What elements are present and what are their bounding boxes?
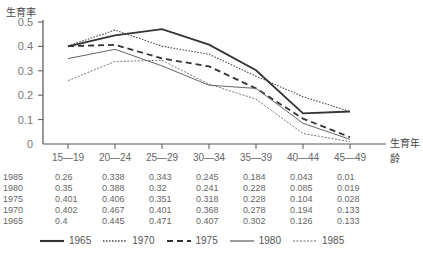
- x-axis-label: 生育年龄: [390, 135, 423, 165]
- table-cell: 0.467: [102, 205, 125, 215]
- line-chart: 00.10.20.30.40.515—1920—2425—2930—3435—3…: [0, 0, 423, 170]
- y-tick-label: 0: [27, 138, 33, 150]
- legend-label: 1985: [322, 235, 344, 246]
- x-tick-label: 40—44: [287, 152, 320, 163]
- y-tick-label: 0.3: [18, 65, 33, 77]
- table-cell: 0.318: [196, 194, 219, 204]
- legend-label: 1965: [69, 235, 91, 246]
- legend-item-1975: 1975: [167, 235, 218, 246]
- table-cell: 0.028: [337, 194, 360, 204]
- table-cell: 0.302: [243, 216, 266, 226]
- series-line-1985: [68, 60, 350, 141]
- table-year: 1965: [3, 216, 23, 226]
- table-cell: 0.278: [243, 205, 266, 215]
- legend-line-icon: [230, 238, 256, 244]
- legend-item-1985: 1985: [293, 235, 344, 246]
- table-cell: 0.194: [290, 205, 313, 215]
- legend-line-icon: [167, 238, 193, 244]
- x-tick-label: 25—29: [146, 152, 179, 163]
- table-cell: 0.133: [337, 205, 360, 215]
- legend-label: 1970: [132, 235, 154, 246]
- x-tick-label: 20—24: [99, 152, 132, 163]
- y-tick-label: 0.5: [18, 16, 33, 28]
- legend-line-icon: [293, 238, 319, 244]
- table-cell: 0.184: [243, 172, 266, 182]
- table-cell: 0.019: [337, 183, 360, 193]
- table-cell: 0.445: [102, 216, 125, 226]
- table-cell: 0.368: [196, 205, 219, 215]
- table-year: 1970: [3, 205, 23, 215]
- table-cell: 0.406: [102, 194, 125, 204]
- table-cell: 0.35: [55, 183, 73, 193]
- legend-item-1970: 1970: [103, 235, 154, 246]
- table-cell: 0.133: [337, 216, 360, 226]
- table-year: 1980: [3, 183, 23, 193]
- table-cell: 0.401: [55, 194, 78, 204]
- series-line-1980: [68, 49, 350, 139]
- table-cell: 0.241: [196, 183, 219, 193]
- table-cell: 0.245: [196, 172, 219, 182]
- y-tick-label: 0.1: [18, 114, 33, 126]
- legend-item-1965: 1965: [40, 235, 91, 246]
- series-line-1965: [68, 29, 350, 113]
- table-cell: 0.407: [196, 216, 219, 226]
- table-cell: 0.26: [55, 172, 73, 182]
- table-year: 1985: [3, 172, 23, 182]
- table-cell: 0.388: [102, 183, 125, 193]
- series-line-1975: [68, 45, 350, 137]
- table-cell: 0.32: [149, 183, 167, 193]
- table-cell: 0.228: [243, 183, 266, 193]
- x-tick-label: 15—19: [52, 152, 85, 163]
- legend-line-icon: [40, 238, 66, 244]
- legend-line-icon: [103, 238, 129, 244]
- legend: 19651970197519801985: [40, 235, 356, 246]
- table-cell: 0.471: [149, 216, 172, 226]
- legend-label: 1980: [259, 235, 281, 246]
- table-cell: 0.104: [290, 194, 313, 204]
- series-line-1970: [68, 30, 350, 111]
- table-cell: 0.085: [290, 183, 313, 193]
- table-cell: 0.343: [149, 172, 172, 182]
- table-cell: 0.01: [337, 172, 355, 182]
- x-tick-label: 35—39: [240, 152, 273, 163]
- x-tick-label: 30—34: [193, 152, 226, 163]
- legend-item-1980: 1980: [230, 235, 281, 246]
- table-cell: 0.043: [290, 172, 313, 182]
- x-tick-label: 45—49: [334, 152, 367, 163]
- table-cell: 0.402: [55, 205, 78, 215]
- y-tick-label: 0.2: [18, 89, 33, 101]
- table-cell: 0.126: [290, 216, 313, 226]
- table-cell: 0.228: [243, 194, 266, 204]
- legend-label: 1975: [196, 235, 218, 246]
- table-cell: 0.401: [149, 205, 172, 215]
- table-cell: 0.4: [55, 216, 68, 226]
- y-tick-label: 0.4: [18, 40, 33, 52]
- table-cell: 0.338: [102, 172, 125, 182]
- table-cell: 0.351: [149, 194, 172, 204]
- table-year: 1975: [3, 194, 23, 204]
